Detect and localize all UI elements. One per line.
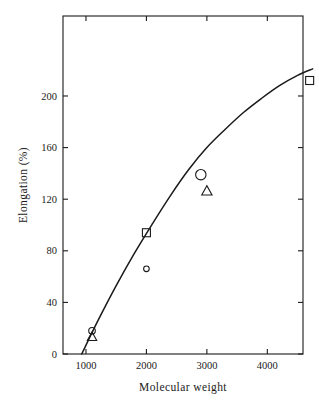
chart-canvas: 04080120160200 1000200030004000 Molecula… [0, 0, 319, 407]
x-tick-label: 1000 [75, 360, 96, 371]
y-axis-title: Elongation (%) [17, 147, 30, 223]
y-tick-label: 200 [41, 91, 57, 102]
x-tick-label: 4000 [257, 360, 278, 371]
x-tick-label: 3000 [196, 360, 217, 371]
elongation-vs-molecular-weight-figure: 04080120160200 1000200030004000 Molecula… [0, 0, 319, 407]
y-tick-label: 120 [41, 194, 57, 205]
x-tick-label: 2000 [136, 360, 157, 371]
y-tick-label: 0 [52, 349, 57, 360]
y-tick-label: 80 [47, 245, 58, 256]
y-tick-label: 40 [47, 297, 58, 308]
x-axis-title: Molecular weight [139, 381, 227, 394]
y-tick-label: 160 [41, 142, 57, 153]
